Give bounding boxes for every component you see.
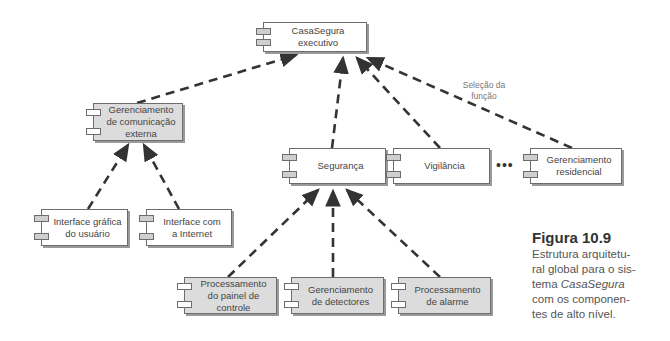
component-port-icon bbox=[386, 154, 401, 161]
edge-alarme-seg bbox=[347, 190, 440, 277]
edge-label-selecao-funcao: Seleção dafunção bbox=[454, 80, 514, 102]
component-label: CasaSeguraexecutivo bbox=[286, 25, 345, 49]
ellipsis-more-components: ••• bbox=[496, 157, 514, 173]
component-port-icon bbox=[177, 301, 192, 308]
component-label: Gerenciamentode detectores bbox=[302, 284, 373, 308]
component-label: Interface gráficado usuário bbox=[47, 216, 121, 240]
figure-caption: Figura 10.9 Estrutura arquitetu- ral glo… bbox=[532, 229, 668, 322]
component-port-icon bbox=[86, 128, 101, 135]
edge-inet-comext bbox=[144, 145, 179, 209]
component-casasegura-executivo[interactable]: CasaSeguraexecutivo bbox=[263, 22, 367, 52]
component-port-icon bbox=[86, 109, 101, 116]
edge-seg-exec bbox=[332, 58, 343, 148]
component-port-icon bbox=[284, 301, 299, 308]
component-label: Segurança bbox=[312, 160, 364, 172]
component-gerenciamento-residencial[interactable]: Gerenciamentoresidencial bbox=[530, 148, 622, 184]
figure-description: Estrutura arquitetu- ral global para o s… bbox=[532, 247, 668, 322]
edge-comext-exec bbox=[137, 55, 296, 103]
component-port-icon bbox=[256, 28, 271, 35]
component-label: Processamentode alarme bbox=[408, 284, 480, 308]
component-port-icon bbox=[391, 301, 406, 308]
component-label: Interface coma Internet bbox=[157, 216, 221, 240]
edge-gui-comext bbox=[88, 145, 128, 209]
component-alarme[interactable]: Processamentode alarme bbox=[398, 277, 491, 314]
edge-vig-exec bbox=[357, 58, 440, 148]
component-label: Gerenciamentode comunicaçãoexterna bbox=[100, 104, 175, 140]
component-port-icon bbox=[282, 154, 297, 161]
component-port-icon bbox=[391, 283, 406, 290]
component-label: Processamentodo painel decontrole bbox=[194, 278, 266, 314]
component-comunicacao-externa[interactable]: Gerenciamentode comunicaçãoexterna bbox=[93, 103, 183, 141]
component-interface-grafica[interactable]: Interface gráficado usuário bbox=[41, 209, 128, 246]
component-vigilancia[interactable]: Vigilância bbox=[393, 148, 490, 184]
component-port-icon bbox=[34, 215, 49, 222]
component-port-icon bbox=[139, 215, 154, 222]
component-port-icon bbox=[139, 233, 154, 240]
component-label: Gerenciamentoresidencial bbox=[541, 154, 612, 178]
component-port-icon bbox=[34, 233, 49, 240]
component-interface-internet[interactable]: Interface coma Internet bbox=[146, 209, 232, 246]
component-painel-controle[interactable]: Processamentodo painel decontrole bbox=[184, 277, 277, 314]
component-port-icon bbox=[284, 283, 299, 290]
component-port-icon bbox=[256, 39, 271, 46]
figure-title: Figura 10.9 bbox=[532, 229, 668, 247]
edge-painel-seg bbox=[228, 190, 318, 277]
component-port-icon bbox=[177, 283, 192, 290]
component-detectores[interactable]: Gerenciamentode detectores bbox=[291, 277, 384, 314]
component-seguranca[interactable]: Segurança bbox=[289, 148, 386, 184]
component-port-icon bbox=[523, 154, 538, 161]
component-label: Vigilância bbox=[418, 160, 465, 172]
component-port-icon bbox=[523, 171, 538, 178]
component-port-icon bbox=[386, 171, 401, 178]
component-port-icon bbox=[282, 171, 297, 178]
